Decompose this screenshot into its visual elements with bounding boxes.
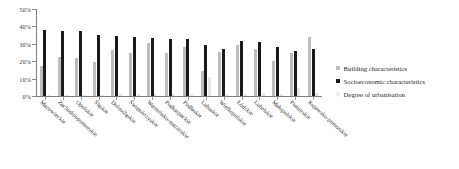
bar-group bbox=[268, 9, 286, 96]
bar bbox=[83, 95, 86, 96]
bar-group bbox=[179, 9, 197, 96]
bar bbox=[312, 49, 315, 96]
bar bbox=[137, 94, 140, 96]
bar bbox=[115, 36, 118, 96]
bar-group bbox=[143, 9, 161, 96]
bar-group bbox=[215, 9, 233, 96]
y-axis-tick bbox=[32, 96, 36, 97]
legend-label: Socioeconomic characteristics bbox=[344, 78, 425, 85]
legend-swatch-icon bbox=[336, 79, 340, 83]
bar bbox=[276, 47, 279, 96]
bar bbox=[236, 45, 239, 96]
bar-group bbox=[54, 9, 72, 96]
legend-swatch-icon bbox=[336, 92, 340, 96]
bar bbox=[297, 88, 300, 96]
bar bbox=[151, 38, 154, 96]
bar bbox=[133, 37, 136, 96]
bar-group bbox=[197, 9, 215, 96]
bar bbox=[254, 49, 257, 96]
bar bbox=[169, 39, 172, 96]
chart-legend: Building characteristicsSocioeconomic ch… bbox=[336, 62, 456, 101]
bar bbox=[101, 95, 104, 96]
bar-group bbox=[125, 9, 143, 96]
legend-swatch-icon bbox=[336, 66, 340, 70]
bar bbox=[129, 53, 132, 96]
bar bbox=[165, 53, 168, 96]
bar bbox=[201, 71, 204, 96]
y-axis-tick-label: 0% bbox=[23, 93, 31, 100]
bar bbox=[119, 94, 122, 96]
bar bbox=[190, 94, 193, 96]
legend-item[interactable]: Building characteristics bbox=[336, 62, 456, 74]
bar bbox=[315, 93, 318, 96]
plot-area: 0%10%20%30%40%50% bbox=[36, 9, 322, 97]
x-axis-label: Lubuskie bbox=[200, 99, 221, 118]
y-axis-tick-label: 30% bbox=[19, 40, 31, 47]
y-axis-tick-label: 10% bbox=[19, 75, 31, 82]
chart-figure: 0%10%20%30%40%50% MazowieckieZachodniopo… bbox=[0, 0, 459, 169]
bar bbox=[47, 95, 50, 96]
bar bbox=[226, 94, 229, 96]
bar-group bbox=[304, 9, 322, 96]
bar bbox=[208, 77, 211, 96]
y-axis-tick-label: 20% bbox=[19, 58, 31, 65]
x-axis-label: Kujawsko-pomorskie bbox=[307, 99, 349, 138]
bar bbox=[186, 39, 189, 96]
legend-label: Building characteristics bbox=[344, 65, 408, 72]
bar-group bbox=[72, 9, 90, 96]
bar bbox=[272, 61, 275, 96]
bar bbox=[154, 94, 157, 96]
bar-group bbox=[161, 9, 179, 96]
bar bbox=[262, 93, 265, 96]
bar bbox=[240, 41, 243, 96]
bar-group bbox=[90, 9, 108, 96]
bar-group bbox=[108, 9, 126, 96]
bar bbox=[294, 51, 297, 96]
bar bbox=[43, 30, 46, 96]
bar bbox=[58, 57, 61, 96]
bar bbox=[97, 35, 100, 96]
bar bbox=[290, 53, 293, 96]
bar-group bbox=[251, 9, 269, 96]
bar bbox=[93, 62, 96, 96]
bar bbox=[65, 95, 68, 96]
bar bbox=[218, 52, 221, 96]
x-axis-labels: MazowieckieZachodniopomorskieOpolskieŚlą… bbox=[36, 99, 336, 169]
bar-group bbox=[36, 9, 54, 96]
legend-item[interactable]: Socioeconomic characteristics bbox=[336, 75, 456, 87]
bar bbox=[258, 42, 261, 96]
bar bbox=[183, 47, 186, 96]
bar bbox=[222, 49, 225, 96]
y-axis-tick-label: 40% bbox=[19, 23, 31, 30]
legend-label: Degree of urbanisation bbox=[344, 91, 406, 98]
legend-item[interactable]: Degree of urbanisation bbox=[336, 88, 456, 100]
y-axis-tick-label: 50% bbox=[19, 6, 31, 13]
bar-group bbox=[286, 9, 304, 96]
bar bbox=[61, 31, 64, 96]
bar-group bbox=[233, 9, 251, 96]
bar bbox=[308, 37, 311, 96]
bar bbox=[111, 50, 114, 96]
bar bbox=[75, 58, 78, 96]
bar bbox=[79, 31, 82, 96]
bar bbox=[147, 43, 150, 96]
x-axis-line bbox=[36, 96, 322, 97]
bar bbox=[280, 94, 283, 96]
bar bbox=[172, 94, 175, 96]
bar bbox=[40, 66, 43, 96]
bar bbox=[204, 45, 207, 96]
bar bbox=[244, 94, 247, 96]
